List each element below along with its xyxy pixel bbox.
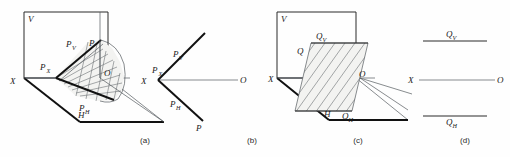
panel-a-label-p: P [88, 38, 95, 48]
panel-b-label-o: O [240, 75, 247, 85]
panel-c-label-h: H [323, 109, 331, 119]
panel-a-label-ph: P [78, 103, 85, 113]
panel-a-label-ph-subscript: H [84, 108, 90, 115]
panel-a-label-pv: P [65, 39, 72, 49]
panel-a-label-px-subscript: X [46, 67, 51, 74]
panel-b-label-pv: P [172, 49, 179, 59]
panel-b-label-px: P [151, 65, 158, 75]
technical-drawing-svg: V H X P X P V P H P O (a) X O P X P V P … [0, 0, 510, 157]
panel-b-label-ph-subscript: H [175, 104, 181, 111]
panel-a-label-px: P [39, 62, 46, 72]
panel-c-label-x: X [267, 74, 274, 84]
panel-d-label-qh-subscript: H [452, 122, 458, 129]
panel-d-label-o: O [497, 75, 504, 85]
panel-c-label-q: Q [297, 46, 304, 56]
panel-a-label-x: X [9, 76, 16, 86]
panel-c-label-qh-subscript: H [348, 116, 354, 123]
figure-container: V H X P X P V P H P O (a) X O P X P V P … [0, 0, 510, 157]
panel-a-label-o: O [104, 68, 111, 78]
panel-d-caption: (d) [460, 136, 470, 145]
panel-c-caption: (c) [353, 136, 363, 145]
panel-b-label-ph: P [169, 99, 176, 109]
panel-b-label-x: X [140, 76, 147, 86]
panel-a-caption: (a) [140, 136, 150, 145]
panel-b-label-px-subscript: X [158, 70, 163, 77]
panel-d-label-x: X [407, 75, 414, 85]
panel-b-label-p: P [195, 123, 202, 133]
panel-c-label-o: O [359, 69, 366, 79]
panel-b-caption: (b) [247, 136, 257, 145]
